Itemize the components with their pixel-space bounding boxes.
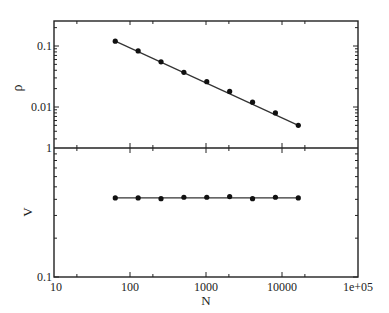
v-data-point — [227, 194, 232, 199]
v-data-point — [296, 195, 301, 200]
rho-data-point — [158, 59, 163, 64]
rho-data-point — [136, 48, 141, 53]
v-data-point — [273, 195, 278, 200]
rho-series — [113, 39, 301, 128]
v-data-point — [250, 196, 255, 201]
x-tick-label: 1e+05 — [343, 280, 373, 294]
x-axis-label: N — [201, 293, 211, 308]
rho-data-point — [296, 123, 301, 128]
v-data-point — [158, 196, 163, 201]
x-tick-label: 10000 — [267, 280, 297, 294]
rho-data-point — [227, 89, 232, 94]
v-series — [113, 194, 301, 201]
y-tick-label: 0.01 — [31, 100, 52, 114]
y-tick-label: 0.1 — [37, 39, 52, 53]
x-tick-label: 100 — [121, 280, 139, 294]
axis-ticks — [54, 21, 358, 277]
x-tick-label: 10 — [50, 280, 62, 294]
v-data-point — [181, 195, 186, 200]
rho-data-point — [204, 79, 209, 84]
rho-data-point — [181, 70, 186, 75]
x-tick-label: 1000 — [194, 280, 218, 294]
rho-data-point — [250, 100, 255, 105]
axis-tick-labels: 0.10.0110.1101001000100001e+05 — [31, 39, 373, 294]
v-data-point — [113, 195, 118, 200]
v-data-point — [136, 195, 141, 200]
rho-data-point — [113, 39, 118, 44]
rho-data-point — [273, 110, 278, 115]
bottom-y-axis-label: V — [20, 207, 35, 217]
chart-figure: 0.10.0110.1101001000100001e+05 N ρ V — [0, 0, 389, 313]
y-tick-label: 1 — [46, 141, 52, 155]
top-y-axis-label: ρ — [10, 85, 25, 92]
v-data-point — [204, 195, 209, 200]
